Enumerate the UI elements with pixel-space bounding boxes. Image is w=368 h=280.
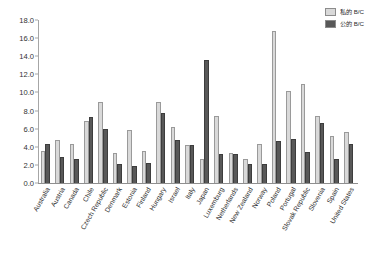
bar-group (284, 20, 298, 183)
legend-item-2: 公的 B/C (325, 19, 364, 29)
bar-group (197, 20, 211, 183)
bar-group (183, 20, 197, 183)
bar-group (38, 20, 52, 183)
bar-public (262, 164, 267, 183)
bar-public (349, 144, 354, 183)
bar-public (132, 166, 137, 183)
bar-chart: 私的 B/C公的 B/C 18.016.014.012.010.08.06.04… (0, 0, 368, 280)
bar-public (103, 129, 108, 183)
y-axis-tick-label: 0.0 (23, 179, 34, 188)
bar-group (154, 20, 168, 183)
bar-public (190, 145, 195, 183)
x-axis-label-cell: Austria (52, 185, 66, 280)
bar-public (320, 123, 325, 183)
plot-area: 18.016.014.012.010.08.06.04.02.00.0 (38, 20, 356, 183)
bar-groups (38, 20, 356, 183)
bar-public (146, 163, 151, 183)
bar-group (52, 20, 66, 183)
bar-group (125, 20, 139, 183)
x-axis-labels: AustraliaAustriaCanadaChileCzech Republi… (38, 185, 356, 280)
x-axis-label: Australia (32, 186, 51, 212)
bar-public (305, 152, 310, 183)
bar-group (255, 20, 269, 183)
x-axis-label: Italy (184, 186, 196, 200)
x-axis-label-cell: Finland (139, 185, 153, 280)
bar-public (89, 117, 94, 183)
y-axis-tick-label: 10.0 (19, 88, 34, 97)
legend-label: 私的 B/C (340, 8, 364, 16)
bar-group (211, 20, 225, 183)
bar-group (168, 20, 182, 183)
bar-public (248, 164, 253, 183)
x-axis-label-cell: Chile (81, 185, 95, 280)
x-axis-label: Spain (326, 186, 341, 205)
bar-group (269, 20, 283, 183)
y-axis-tick-label: 6.0 (23, 124, 34, 133)
bar-group (139, 20, 153, 183)
chart-legend: 私的 B/C公的 B/C (325, 7, 364, 29)
y-axis-tick-label: 4.0 (23, 142, 34, 151)
bar-group (342, 20, 356, 183)
x-axis-label: Israel (167, 186, 181, 204)
bar-group (81, 20, 95, 183)
legend-item-1: 私的 B/C (325, 7, 364, 17)
y-axis-tick-label: 2.0 (23, 160, 34, 169)
x-axis-label-cell: Israel (168, 185, 182, 280)
bar-public (117, 164, 122, 183)
x-axis-label-cell: Netherlands (226, 185, 240, 280)
bar-group (313, 20, 327, 183)
legend-swatch-icon (325, 8, 336, 16)
bar-public (291, 139, 296, 183)
bar-group (226, 20, 240, 183)
y-axis-tick-label: 16.0 (19, 34, 34, 43)
bar-public (161, 113, 166, 183)
bar-public (204, 60, 209, 183)
bar-group (96, 20, 110, 183)
x-axis-label-cell: New Zealand (240, 185, 254, 280)
bar-group (240, 20, 254, 183)
x-axis-label-cell: Canada (67, 185, 81, 280)
bar-public (60, 157, 65, 183)
x-axis-line (38, 183, 358, 184)
y-axis-tick-label: 8.0 (23, 106, 34, 115)
y-axis-tick-label: 18.0 (19, 16, 34, 25)
bar-public (276, 141, 281, 183)
x-axis-label-cell: Australia (38, 185, 52, 280)
bar-group (110, 20, 124, 183)
bar-group (298, 20, 312, 183)
bar-public (74, 159, 79, 183)
bar-public (219, 154, 224, 183)
x-axis-label-cell: Slovak Republic (298, 185, 312, 280)
y-axis-tick-label: 12.0 (19, 70, 34, 79)
x-axis-label-cell: Luxemburg (211, 185, 225, 280)
x-axis-label-cell: Denmark (110, 185, 124, 280)
bar-public (233, 154, 238, 183)
bar-group (67, 20, 81, 183)
x-axis-label-cell: Japan (197, 185, 211, 280)
bar-public (45, 144, 50, 183)
legend-label: 公的 B/C (340, 20, 364, 28)
bar-public (334, 159, 339, 183)
x-axis-label-cell: Poland (269, 185, 283, 280)
legend-swatch-icon (325, 20, 336, 28)
x-axis-label: Chile (81, 186, 95, 203)
bar-public (175, 140, 180, 183)
x-axis-label-cell: Spain (327, 185, 341, 280)
x-axis-label-cell: United States (342, 185, 356, 280)
y-axis-tick-label: 14.0 (19, 52, 34, 61)
bar-group (327, 20, 341, 183)
